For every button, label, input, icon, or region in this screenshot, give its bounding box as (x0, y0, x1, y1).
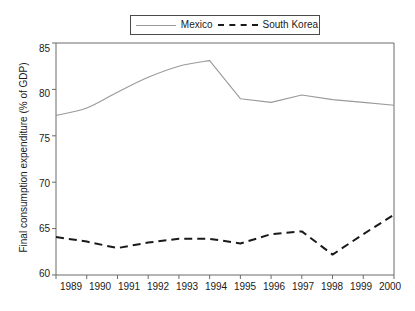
chart-plot-area (0, 0, 415, 311)
x-axis-ticks (56, 275, 394, 279)
series-line-mexico (56, 61, 394, 116)
chart-figure: Mexico South Korea Final consumption exp… (0, 0, 415, 311)
series-line-south-korea (56, 215, 394, 255)
y-axis-ticks (52, 43, 56, 275)
